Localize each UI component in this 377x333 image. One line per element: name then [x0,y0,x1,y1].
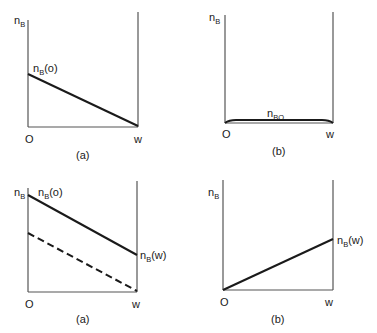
end-value-label: nB(w) [337,234,363,249]
y-axis-label: nB [14,186,25,201]
origin-label: O [25,298,34,310]
panel-caption: (a) [76,149,89,161]
concentration-line [28,74,138,126]
panel-top-b: nB nBO O w (b) [209,11,334,157]
origin-label: O [25,133,34,145]
end-label: w [131,298,140,310]
end-label: w [324,296,333,308]
panel-caption: (b) [271,313,284,325]
end-value-label: nB(w) [140,249,166,264]
dashed-concentration-line [28,233,137,291]
panel-bottom-a: nB nB(o) nB(w) O w (a) [14,181,166,325]
solid-concentration-line [28,195,137,255]
panel-caption: (b) [272,145,285,157]
concentration-line [223,239,333,290]
panel-bottom-b: nB nB(w) O w (b) [208,180,363,325]
line-label: nB(o) [38,186,63,201]
origin-label: O [220,296,229,308]
panel-top-a: nB nB(o) O w (a) [14,12,142,161]
diagram-canvas: nB nB(o) O w (a) nB nBO O w (b) nB nB(o)… [0,0,377,333]
origin-label: O [222,128,231,140]
end-label: w [133,133,142,145]
end-label: w [325,128,334,140]
panel-caption: (a) [76,313,89,325]
y-axis-label: nB [209,11,220,26]
y-axis-label: nB [14,14,25,29]
line-label: nB(o) [33,62,58,77]
y-axis-label: nB [208,186,219,201]
